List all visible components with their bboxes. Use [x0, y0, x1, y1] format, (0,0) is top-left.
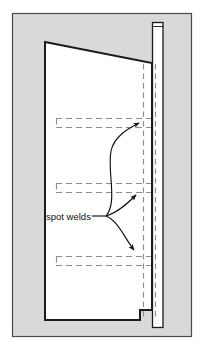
- vertical-pillar: [153, 23, 164, 328]
- figure-root: spot welds: [0, 0, 203, 351]
- spot-welds-label: spot welds: [46, 211, 91, 222]
- sheet-metal-panel: [45, 42, 152, 320]
- spot-weld-illustration: spot welds: [0, 0, 203, 351]
